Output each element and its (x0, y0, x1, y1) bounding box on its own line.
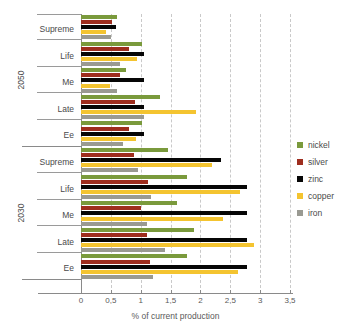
bar-zinc-2030-ee (81, 265, 247, 269)
x-tick-label: 1 (138, 296, 142, 305)
legend-item-copper[interactable]: copper (297, 187, 351, 204)
legend: nickelsilverzinccopperiron (297, 136, 351, 221)
bar-copper-2030-ee (81, 270, 238, 274)
bar-copper-2050-late (81, 110, 196, 114)
legend-label-nickel: nickel (308, 140, 330, 150)
gridline-3 (260, 14, 261, 293)
x-tick (260, 290, 261, 294)
legend-swatch-zinc (297, 176, 303, 182)
group-separator (22, 146, 81, 147)
bar-zinc-2030-life (81, 185, 247, 189)
category-separator (37, 14, 81, 15)
category-label-supreme: Supreme (0, 157, 74, 167)
bar-zinc-2050-me (81, 78, 144, 82)
x-tick-label: 0,5 (105, 296, 116, 305)
bar-copper-2030-supreme (81, 163, 212, 167)
bar-zinc-2050-supreme (81, 25, 116, 29)
bar-silver-2050-ee (81, 127, 129, 131)
bar-iron-2030-me (81, 222, 147, 226)
x-tick (200, 290, 201, 294)
bar-iron-2050-me (81, 89, 117, 93)
category-separator (37, 66, 81, 67)
bar-copper-2050-life (81, 57, 137, 61)
bar-nickel-2050-supreme (81, 15, 117, 19)
bar-zinc-2030-late (81, 238, 247, 242)
bar-iron-2050-late (81, 115, 144, 119)
category-label-supreme: Supreme (0, 24, 74, 34)
bar-nickel-2030-life (81, 175, 187, 179)
gridline-2 (200, 14, 201, 293)
category-label-ee: Ee (0, 130, 74, 140)
legend-item-zinc[interactable]: zinc (297, 170, 351, 187)
legend-swatch-iron (297, 210, 303, 216)
x-tick-label: 2 (198, 296, 202, 305)
group-label-2050: 2050 (12, 75, 31, 85)
x-tick (141, 290, 142, 294)
bar-zinc-2050-ee (81, 132, 144, 136)
bar-silver-2050-supreme (81, 20, 112, 24)
x-axis-title: % of current production (0, 311, 351, 321)
x-tick (171, 290, 172, 294)
category-separator (37, 92, 81, 93)
x-tick (290, 290, 291, 294)
category-separator (37, 119, 81, 120)
x-tick-label: 1,5 (165, 296, 176, 305)
legend-swatch-copper (297, 193, 303, 199)
bar-zinc-2030-me (81, 211, 247, 215)
legend-label-iron: iron (308, 208, 322, 218)
category-separator (37, 172, 81, 173)
x-tick-label: 0 (79, 296, 83, 305)
bar-copper-2050-ee (81, 137, 136, 141)
bar-iron-2030-supreme (81, 168, 138, 172)
x-tick (230, 290, 231, 294)
bar-nickel-2050-life (81, 42, 142, 46)
legend-swatch-silver (297, 159, 303, 165)
group-separator (22, 279, 81, 280)
group-label-2030: 2030 (12, 208, 31, 218)
bar-zinc-2030-supreme (81, 158, 221, 162)
bar-nickel-2030-ee (81, 254, 187, 258)
bar-copper-2030-life (81, 190, 240, 194)
bar-silver-2050-life (81, 47, 129, 51)
x-tick (81, 290, 82, 294)
bar-nickel-2050-late (81, 95, 160, 99)
bar-iron-2050-supreme (81, 35, 111, 39)
bar-silver-2030-ee (81, 260, 150, 264)
bar-nickel-2030-supreme (81, 148, 168, 152)
legend-item-silver[interactable]: silver (297, 153, 351, 170)
category-label-life: Life (0, 184, 74, 194)
legend-item-iron[interactable]: iron (297, 204, 351, 221)
bar-copper-2050-supreme (81, 30, 106, 34)
bar-silver-2030-supreme (81, 153, 134, 157)
group-label-text: 2050 (16, 70, 26, 89)
gridline-2-5 (230, 14, 231, 293)
bar-nickel-2030-me (81, 201, 177, 205)
bar-iron-2030-ee (81, 275, 153, 279)
bar-copper-2050-me (81, 84, 110, 88)
bar-copper-2030-late (81, 243, 254, 247)
category-separator (37, 252, 81, 253)
bar-silver-2030-life (81, 180, 148, 184)
x-tick-label: 3,5 (284, 296, 295, 305)
legend-item-nickel[interactable]: nickel (297, 136, 351, 153)
category-label-late: Late (0, 237, 74, 247)
bar-silver-2050-late (81, 100, 135, 104)
bar-silver-2050-me (81, 73, 120, 77)
bar-nickel-2030-late (81, 228, 194, 232)
category-separator (37, 225, 81, 226)
x-tick-label: 3 (258, 296, 262, 305)
category-label-ee: Ee (0, 263, 74, 273)
legend-label-silver: silver (308, 157, 328, 167)
x-axis-line (38, 293, 293, 294)
bar-zinc-2050-life (81, 52, 144, 56)
x-tick (111, 290, 112, 294)
bar-chart: SupremeLifeMeLateEe2050SupremeLifeMeLate… (0, 0, 351, 330)
bar-nickel-2050-me (81, 68, 126, 72)
bar-iron-2050-ee (81, 142, 123, 146)
bar-copper-2030-me (81, 217, 223, 221)
bar-nickel-2050-ee (81, 121, 142, 125)
bar-silver-2030-me (81, 206, 141, 210)
category-separator (37, 39, 81, 40)
category-label-late: Late (0, 104, 74, 114)
gridline-1-5 (171, 14, 172, 293)
